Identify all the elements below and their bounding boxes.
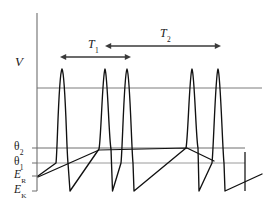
interval-label-t2: T2 [160, 27, 170, 42]
membrane-potential-trace [38, 69, 262, 191]
level-label-e-potassium: EK [14, 184, 26, 198]
t1-subscript: 1 [95, 46, 99, 55]
level-label-theta2: θ2 [14, 141, 23, 155]
y-axis [32, 13, 37, 191]
level-label-e-rest: ER [14, 169, 26, 183]
t1-base: T [88, 37, 95, 51]
theta1-base: θ [14, 155, 20, 167]
waveform-plot [0, 0, 268, 212]
theta2-base: θ [14, 140, 20, 152]
interval-label-t1: T1 [88, 38, 98, 53]
e-rest-base: E [14, 168, 21, 180]
y-axis-label-voltage: V [15, 55, 23, 68]
e-k-subscript: K [21, 192, 26, 200]
t2-subscript: 2 [167, 35, 171, 44]
t2-base: T [160, 26, 167, 40]
e-k-base: E [14, 183, 21, 195]
gridlines [37, 88, 262, 163]
figure-canvas: V θ2 θ1 ER EK T1 T2 [0, 0, 268, 212]
